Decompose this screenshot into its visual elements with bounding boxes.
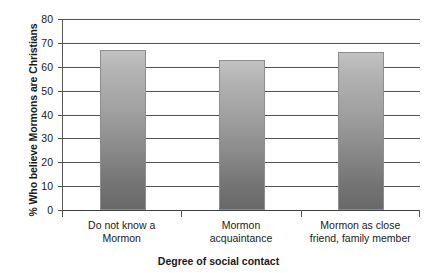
y-tick-label-50: 50	[29, 86, 53, 96]
y-tick-label-10: 10	[29, 181, 53, 191]
category-axis	[62, 210, 420, 211]
y-tick-mark-60	[58, 67, 63, 68]
y-tick-label-40: 40	[29, 110, 53, 120]
y-tick-mark-80	[58, 19, 63, 20]
bar-chart: % Who believe Mormons are Christians 807…	[0, 0, 437, 273]
y-tick-mark-40	[58, 115, 63, 116]
category-separator-1	[181, 210, 182, 217]
y-tick-label-70: 70	[29, 38, 53, 48]
category-label-2-line-1: Mormon	[181, 219, 300, 232]
gridline-70	[63, 43, 420, 44]
category-label-1-line-1: Do not know a	[62, 219, 181, 232]
bar-1	[100, 50, 146, 210]
category-label-1-line-2: Mormon	[62, 232, 181, 245]
x-axis-title: Degree of social contact	[0, 255, 437, 267]
y-tick-label-20: 20	[29, 157, 53, 167]
category-label-2-line-2: acquaintance	[181, 232, 300, 245]
bar-3	[338, 52, 384, 210]
category-label-3-line-1: Mormon as close	[301, 219, 420, 232]
y-tick-mark-20	[58, 162, 63, 163]
y-tick-label-0: 0	[29, 205, 53, 215]
y-tick-mark-50	[58, 91, 63, 92]
y-tick-mark-30	[58, 138, 63, 139]
category-label-3: Mormon as closefriend, family member	[301, 219, 420, 244]
y-tick-mark-70	[58, 43, 63, 44]
plot-area: 80706050403020100	[62, 19, 420, 210]
gridline-80	[63, 19, 420, 20]
category-label-1: Do not know aMormon	[62, 219, 181, 244]
axis-tick-start	[62, 210, 63, 217]
category-separator-2	[301, 210, 302, 217]
axis-tick-end	[419, 210, 420, 217]
category-label-2: Mormonacquaintance	[181, 219, 300, 244]
y-tick-label-60: 60	[29, 62, 53, 72]
bar-2	[219, 60, 265, 210]
category-label-3-line-2: friend, family member	[301, 232, 420, 245]
y-tick-label-30: 30	[29, 133, 53, 143]
y-tick-label-80: 80	[29, 14, 53, 24]
y-tick-mark-10	[58, 186, 63, 187]
